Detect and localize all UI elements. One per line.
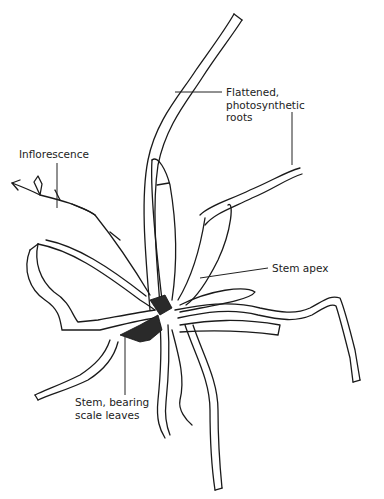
plant-diagram bbox=[0, 0, 384, 499]
leader-stem-apex bbox=[200, 268, 268, 278]
label-stem-scale-leaves: Stem, bearing scale leaves bbox=[75, 396, 149, 421]
label-flattened-roots: Flattened, photosynthetic roots bbox=[226, 86, 305, 124]
stem-scale-leaves bbox=[120, 295, 172, 342]
left-roots bbox=[27, 240, 155, 400]
label-inflorescence: Inflorescence bbox=[19, 148, 89, 161]
label-stem-apex: Stem apex bbox=[272, 262, 328, 275]
right-roots bbox=[175, 289, 360, 382]
inflorescence-stalk bbox=[12, 176, 150, 295]
lower-roots bbox=[157, 325, 222, 490]
upright-roots bbox=[152, 159, 302, 305]
